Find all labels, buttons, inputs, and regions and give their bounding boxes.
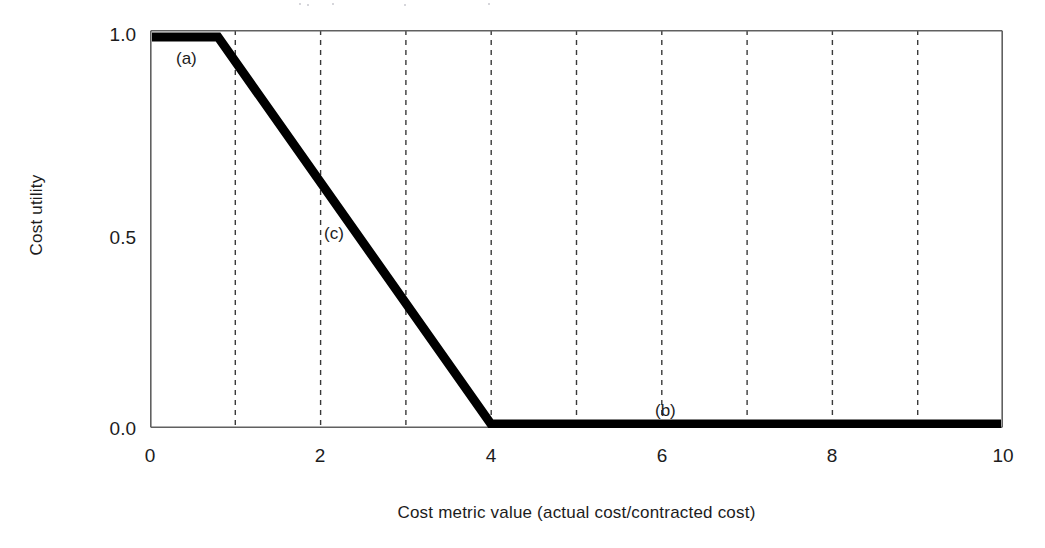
plot-svg (150, 30, 1003, 428)
plot-area: (a) (c) (b) (150, 30, 1003, 428)
x-tick-label-6: 6 (627, 446, 697, 465)
x-tick-label-10: 10 (968, 446, 1038, 465)
annotation-a: (a) (176, 50, 197, 67)
scan-speckle (307, 4, 309, 6)
scan-speckle (404, 4, 406, 6)
y-tick-label-3: 0.0 (76, 419, 136, 438)
annotation-b: (b) (655, 402, 676, 419)
y-axis-title: Cost utility (27, 115, 47, 315)
x-axis-title: Cost metric value (actual cost/contracte… (150, 503, 1003, 523)
x-tick-label-8: 8 (797, 446, 867, 465)
y-tick-label-1: 1.0 (76, 25, 136, 44)
scan-speckle (299, 3, 301, 5)
scan-speckle (488, 3, 490, 5)
x-tick-label-2: 2 (285, 446, 355, 465)
x-tick-label-0: 0 (115, 446, 185, 465)
cost-utility-chart-figure: Cost utility 1.0 0.5 0.0 0 2 4 6 8 10 (0, 0, 1045, 548)
x-tick-label-4: 4 (456, 446, 526, 465)
annotation-c: (c) (324, 225, 344, 242)
y-axis-tick-labels: 1.0 0.5 0.0 (80, 0, 136, 460)
y-tick-label-2: 0.5 (76, 228, 136, 247)
scan-speckle (332, 3, 334, 5)
